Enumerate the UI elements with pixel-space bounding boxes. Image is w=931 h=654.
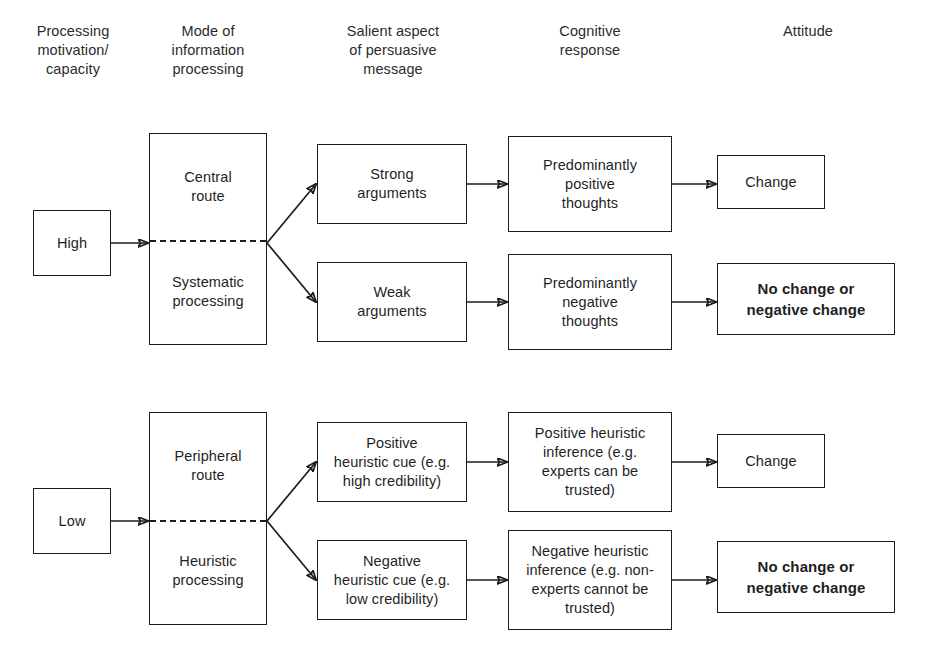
- column-header-cognitive-response: Cognitive response: [510, 22, 670, 60]
- column-header-salient-aspect: Salient aspect of persuasive message: [313, 22, 473, 79]
- route-label-central-route: Central route: [150, 134, 266, 239]
- node-attitude-change-central: Change: [717, 155, 825, 209]
- route-label-systematic-processing: Systematic processing: [150, 239, 266, 344]
- node-positive-heuristic-cue: Positive heuristic cue (e.g. high credib…: [317, 422, 467, 502]
- node-positive-heuristic-inference: Positive heuristic inference (e.g. exper…: [508, 412, 672, 512]
- column-header-mode-of-processing: Mode of information processing: [143, 22, 273, 79]
- route-label-heuristic-processing: Heuristic processing: [150, 519, 266, 625]
- node-predominantly-positive-thoughts: Predominantly positive thoughts: [508, 136, 672, 232]
- node-attitude-no-change-central: No change or negative change: [717, 263, 895, 335]
- flowchart-diagram: Processing motivation/ capacity Mode of …: [0, 0, 931, 654]
- column-header-processing-motivation: Processing motivation/ capacity: [8, 22, 138, 79]
- route-label-peripheral-route: Peripheral route: [150, 413, 266, 519]
- node-negative-heuristic-cue: Negative heuristic cue (e.g. low credibi…: [317, 540, 467, 620]
- node-high-motivation: High: [33, 210, 111, 276]
- node-attitude-change-peripheral: Change: [717, 434, 825, 488]
- node-negative-heuristic-inference: Negative heuristic inference (e.g. non- …: [508, 530, 672, 630]
- node-low-motivation: Low: [33, 488, 111, 554]
- node-peripheral-heuristic-route: Peripheral route Heuristic processing: [149, 412, 267, 625]
- column-header-attitude: Attitude: [718, 22, 898, 41]
- node-strong-arguments: Strong arguments: [317, 144, 467, 224]
- node-weak-arguments: Weak arguments: [317, 262, 467, 342]
- node-central-systematic-route: Central route Systematic processing: [149, 133, 267, 345]
- node-predominantly-negative-thoughts: Predominantly negative thoughts: [508, 254, 672, 350]
- node-attitude-no-change-peripheral: No change or negative change: [717, 541, 895, 613]
